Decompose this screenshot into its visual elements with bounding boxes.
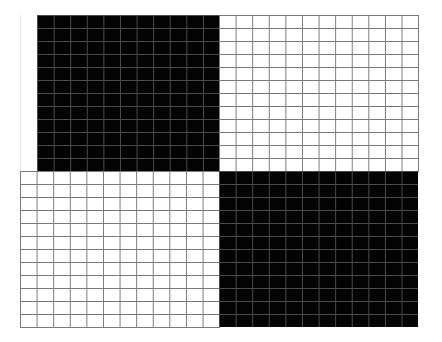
top-left-black-quadrant: [37, 15, 219, 171]
bottom-right-black-quadrant: [219, 171, 418, 327]
top-right-white-quadrant: [219, 15, 419, 172]
top-left-outline: [20, 15, 37, 171]
checkerboard-figure: [0, 0, 442, 342]
bottom-left-white-quadrant: [20, 171, 220, 328]
